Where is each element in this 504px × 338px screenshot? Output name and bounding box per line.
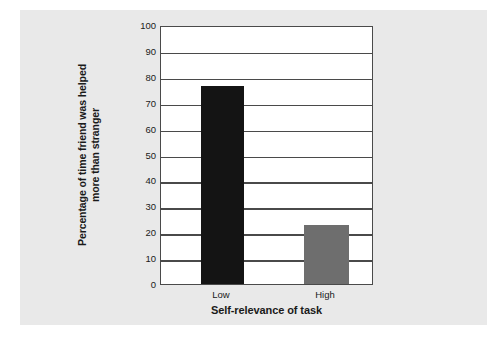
x-axis-category-label-high: High: [290, 289, 360, 300]
gridline-50: [161, 157, 372, 159]
y-tick-label-70: 70: [116, 99, 156, 109]
gridline-90: [161, 53, 372, 55]
y-axis-title: Percentage of time friend was helped mor…: [76, 45, 102, 265]
x-axis-category-label-low: Low: [186, 289, 256, 300]
bar-low: [201, 86, 244, 284]
gridline-60: [161, 131, 372, 133]
y-axis-title-line-1: Percentage of time friend was helped: [76, 45, 89, 265]
y-tick-label-100: 100: [116, 21, 156, 31]
y-tick-label-0: 0: [116, 280, 156, 290]
y-tick-label-90: 90: [116, 47, 156, 57]
bar-high: [304, 225, 349, 284]
y-axis-title-line-2: more than stranger: [89, 45, 102, 265]
y-tick-label-50: 50: [116, 151, 156, 161]
y-tick-label-30: 30: [116, 202, 156, 212]
plot-area: [160, 26, 373, 285]
gridline-30: [161, 208, 372, 210]
y-tick-label-60: 60: [116, 125, 156, 135]
y-tick-label-10: 10: [116, 254, 156, 264]
x-axis-title: Self-relevance of task: [160, 304, 373, 316]
gridline-40: [161, 182, 372, 184]
chart-screenshot: Percentage of time friend was helped mor…: [0, 0, 504, 338]
gridline-80: [161, 79, 372, 81]
y-tick-label-40: 40: [116, 176, 156, 186]
y-tick-label-20: 20: [116, 228, 156, 238]
y-tick-label-80: 80: [116, 73, 156, 83]
gridline-70: [161, 105, 372, 107]
